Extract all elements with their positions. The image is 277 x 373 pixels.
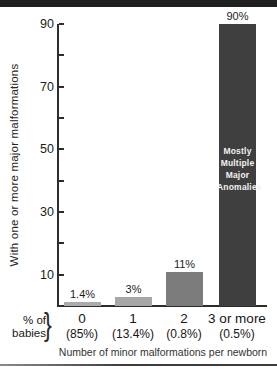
y-axis-tick — [59, 274, 64, 276]
bar-group-2: 11% — [166, 258, 203, 306]
y-tick-label: 10 — [24, 269, 54, 281]
y-axis-tick — [59, 117, 64, 119]
y-axis-tick — [59, 180, 64, 182]
y-axis-title: With one or more major malformations — [8, 24, 24, 306]
bar-value-label: 1.4% — [70, 288, 95, 300]
bar — [64, 302, 101, 306]
curly-brace: } — [44, 309, 52, 340]
bar-group-0: 1.4% — [64, 288, 101, 306]
y-axis-tick — [59, 148, 64, 150]
bar-group-3: 90% Mostly Multiple Major Anomalies — [219, 10, 256, 306]
y-axis-line — [57, 24, 59, 307]
y-tick-label: 70 — [24, 81, 54, 93]
y-axis-tick — [59, 86, 64, 88]
pct-of-babies-caption: % of babies — [6, 314, 46, 340]
bar — [166, 272, 203, 306]
bar-value-label: 11% — [174, 258, 195, 270]
bar-value-label: 3% — [126, 283, 142, 295]
x-axis-title: Number of minor malformations per newbor… — [57, 346, 269, 358]
y-tick-label: 50 — [24, 143, 54, 155]
y-axis-tick — [59, 211, 64, 213]
y-axis-tick — [59, 23, 64, 25]
top-border-rule — [0, 0, 277, 7]
bar-annotation: Mostly Multiple Major Anomalies — [217, 146, 258, 194]
y-axis-tick — [59, 54, 64, 56]
bottom-border-rule — [0, 364, 277, 366]
bar: Mostly Multiple Major Anomalies — [219, 24, 256, 306]
y-tick-label: 30 — [24, 206, 54, 218]
y-tick-label: 90 — [24, 18, 54, 30]
y-axis-tick — [59, 242, 64, 244]
pct-of-babies-value: (0.5%) — [197, 327, 277, 341]
bar — [115, 297, 152, 306]
bar-value-label: 90% — [226, 10, 248, 22]
x-category-label: 3 or more — [197, 311, 277, 326]
bar-group-1: 3% — [115, 283, 152, 306]
